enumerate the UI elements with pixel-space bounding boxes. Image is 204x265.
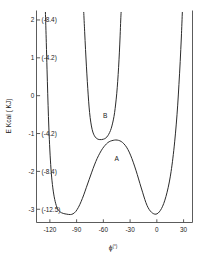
y-tick-label--3: -3 (29, 206, 35, 213)
x-title-superscript: (°) (112, 244, 117, 249)
y-kj-label-1: (-4.2) (42, 54, 57, 62)
chart-canvas: -120-90-60-30030 210-1-2-3 (-8.4)(-4.2)(… (0, 0, 204, 265)
x-tick-label--90: -90 (72, 226, 82, 233)
y-axis-title-text: E Kcal ( KJ) (5, 99, 13, 134)
y-tick-label-1: 1 (31, 54, 35, 61)
x-tick-label--60: -60 (99, 226, 109, 233)
y-kj-label-2: (-8.4) (42, 16, 57, 24)
y-tick-label--2: -2 (29, 168, 35, 175)
x-tick-label--30: -30 (125, 226, 135, 233)
curve-label-B: B (103, 112, 108, 119)
energy-torsion-plot-figure: -120-90-60-30030 210-1-2-3 (-8.4)(-4.2)(… (0, 0, 204, 265)
y-kj-label--2: (-8.4) (42, 168, 57, 176)
x-tick-label-30: 30 (180, 226, 188, 233)
y-tick-label-2: 2 (31, 16, 35, 23)
y-tick-label-0: 0 (31, 92, 35, 99)
y-tick-label--1: -1 (29, 130, 35, 137)
y-axis-title: E Kcal ( KJ) (5, 99, 13, 134)
curve-label-A: A (115, 155, 120, 162)
x-tick-label-0: 0 (155, 226, 159, 233)
x-tick-label--120: -120 (43, 226, 56, 233)
